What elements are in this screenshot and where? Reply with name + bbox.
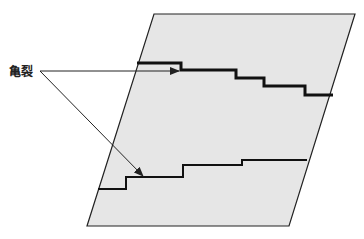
panel-parallelogram <box>87 14 355 226</box>
crack-diagram: 亀裂 <box>0 0 364 239</box>
crack-label: 亀裂 <box>9 62 33 79</box>
diagram-svg <box>0 0 364 239</box>
